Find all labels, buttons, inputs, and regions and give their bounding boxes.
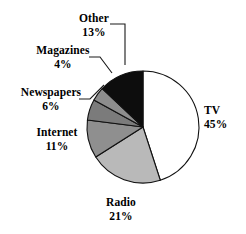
pie-label-radio: Radio 21% — [96, 196, 146, 223]
pie-label-newspapers-value: 6% — [8, 100, 94, 114]
pie-label-radio-name: Radio — [96, 196, 146, 210]
pie-label-other-name: Other — [64, 12, 124, 26]
pie-label-other: Other 13% — [64, 12, 124, 39]
pie-label-internet: Internet 11% — [22, 126, 92, 153]
pie-label-other-value: 13% — [64, 26, 124, 40]
pie-label-radio-value: 21% — [96, 210, 146, 224]
pie-label-tv: TV 45% — [204, 104, 238, 131]
pie-label-magazines-name: Magazines — [26, 44, 100, 58]
pie-chart: Other 13% Magazines 4% Newspapers 6% Int… — [0, 0, 246, 234]
pie-label-magazines-value: 4% — [26, 58, 100, 72]
pie-label-newspapers-name: Newspapers — [8, 86, 94, 100]
pie-label-internet-name: Internet — [22, 126, 92, 140]
pie-label-newspapers: Newspapers 6% — [8, 86, 94, 113]
pie-label-internet-value: 11% — [22, 140, 92, 154]
pie-label-tv-value: 45% — [204, 118, 238, 132]
pie-label-magazines: Magazines 4% — [26, 44, 100, 71]
pie-label-tv-name: TV — [204, 104, 238, 118]
